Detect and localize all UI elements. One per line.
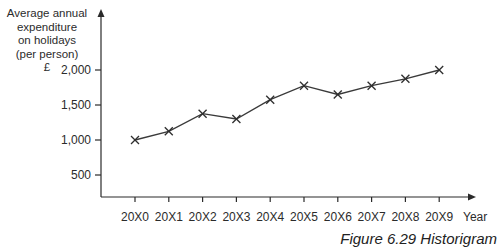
y-axis-ticks: 5001,0001,5002,000 — [61, 63, 101, 182]
x-marker-icon — [266, 96, 274, 104]
x-tick-label: 20X1 — [155, 210, 183, 224]
x-marker-icon — [131, 136, 139, 144]
x-tick-label: 20X8 — [391, 210, 419, 224]
x-tick-label: 20X4 — [256, 210, 284, 224]
x-tick-label: 20X9 — [425, 210, 453, 224]
y-tick-label: 1,500 — [61, 98, 91, 112]
series-line — [135, 70, 439, 140]
y-tick-label: 2,000 — [61, 63, 91, 77]
x-axis-label: Year — [463, 210, 487, 224]
y-axis-label-line: on holidays — [18, 34, 76, 46]
y-axis-label-line: (per person) — [16, 48, 79, 60]
x-tick-label: 20X3 — [222, 210, 250, 224]
y-tick-label: 1,000 — [61, 133, 91, 147]
x-marker-icon — [300, 82, 308, 90]
historigram-chart: Average annualexpenditureon holidays(per… — [0, 0, 499, 250]
x-axis-ticks: 20X020X120X220X320X420X520X620X720X820X9 — [121, 197, 454, 224]
x-tick-label: 20X2 — [189, 210, 217, 224]
data-series — [131, 66, 443, 144]
y-axis-label-line: £ — [44, 61, 51, 73]
x-axis-arrow-icon — [468, 194, 476, 201]
x-tick-label: 20X0 — [121, 210, 149, 224]
y-axis-label-line: expenditure — [17, 21, 77, 33]
x-tick-label: 20X6 — [324, 210, 352, 224]
x-tick-label: 20X7 — [358, 210, 386, 224]
y-axis-arrow-icon — [98, 9, 105, 17]
x-marker-icon — [435, 66, 443, 74]
x-marker-icon — [334, 91, 342, 99]
figure-caption: Figure 6.29 Historigram — [340, 230, 497, 247]
x-marker-icon — [165, 127, 173, 135]
x-tick-label: 20X5 — [290, 210, 318, 224]
axes — [98, 9, 477, 201]
y-tick-label: 500 — [71, 168, 91, 182]
y-axis-label-line: Average annual — [7, 7, 87, 19]
